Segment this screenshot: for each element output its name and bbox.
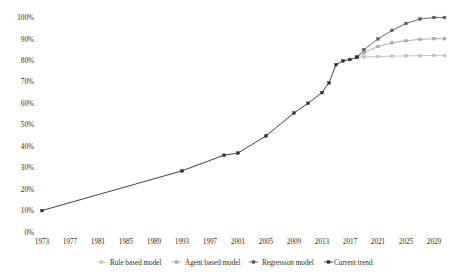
x-axis-tick-label: 2009	[287, 238, 302, 246]
x-axis-tick-label: 2029	[427, 238, 442, 246]
legend-marker-swatch	[175, 261, 178, 264]
series-marker	[356, 56, 359, 59]
chart-legend: Rule based modelAgent based modelRegress…	[97, 259, 373, 267]
series-marker	[41, 209, 44, 212]
y-axis-tick-label: 20%	[21, 186, 34, 194]
series-marker	[433, 16, 436, 19]
series-marker	[363, 52, 366, 55]
y-axis-tick-label: 10%	[21, 207, 34, 215]
series-marker	[419, 18, 422, 21]
series-marker	[443, 37, 446, 40]
series-marker	[377, 55, 380, 58]
x-axis-tick-label: 1977	[63, 238, 78, 246]
y-axis-tick-label: 90%	[21, 36, 34, 44]
series-marker	[307, 102, 310, 105]
series-lines-group	[42, 18, 445, 211]
y-axis-tick-label: 80%	[21, 57, 34, 65]
series-marker	[321, 91, 324, 94]
x-axis-tick-label: 2017	[343, 238, 358, 246]
series-marker	[419, 54, 422, 57]
y-axis-tick-label: 70%	[21, 78, 34, 86]
legend-marker-swatch	[100, 261, 103, 264]
series-line	[357, 55, 445, 57]
series-marker	[405, 55, 408, 58]
y-axis-tick-label: 50%	[21, 121, 34, 129]
series-marker	[237, 152, 240, 155]
y-axis-tick-labels: 0%10%20%30%40%50%60%70%80%90%100%	[17, 14, 34, 237]
series-marker	[433, 54, 436, 57]
series-marker	[293, 112, 296, 115]
line-chart: 0%10%20%30%40%50%60%70%80%90%100% 197319…	[0, 0, 462, 275]
x-axis-tick-label: 1985	[119, 238, 134, 246]
y-axis-tick-label: 30%	[21, 164, 34, 172]
legend-marker-swatch	[327, 261, 330, 264]
series-line	[357, 18, 445, 58]
series-marker	[335, 63, 338, 66]
series-line	[42, 57, 357, 210]
series-marker	[443, 16, 446, 19]
series-marker	[419, 38, 422, 41]
chart-container: 0%10%20%30%40%50%60%70%80%90%100% 197319…	[0, 0, 462, 275]
series-marker	[363, 56, 366, 59]
x-axis-tick-label: 2005	[259, 238, 274, 246]
series-marker	[265, 135, 268, 138]
series-marker	[377, 38, 380, 41]
series-marker	[405, 22, 408, 25]
series-marker	[377, 45, 380, 48]
y-axis-tick-label: 40%	[21, 143, 34, 151]
x-axis-tick-label: 2021	[371, 238, 386, 246]
y-axis-tick-label: 100%	[17, 14, 34, 22]
series-line	[357, 39, 445, 57]
x-axis-tick-label: 2025	[399, 238, 414, 246]
series-marker	[391, 29, 394, 32]
series-marker	[363, 48, 366, 51]
legend-item-label[interactable]: Regression model	[262, 259, 314, 267]
x-axis-tick-label: 1989	[147, 238, 162, 246]
series-marker	[391, 55, 394, 58]
x-axis-tick-labels: 1973197719811985198919931997200120052009…	[35, 238, 442, 246]
x-axis-tick-label: 1997	[203, 238, 218, 246]
legend-marker-swatch	[252, 261, 255, 264]
x-axis-tick-label: 2001	[231, 238, 246, 246]
legend-item-label[interactable]: Current trend	[334, 259, 373, 267]
series-marker	[223, 154, 226, 157]
legend-item-label[interactable]: Agent based model	[185, 259, 241, 267]
series-marker	[342, 59, 345, 62]
y-axis-tick-label: 0%	[24, 229, 34, 237]
series-marker	[443, 54, 446, 57]
legend-item-label[interactable]: Rule based model	[110, 259, 162, 267]
series-markers-group	[41, 16, 446, 212]
series-marker	[328, 82, 331, 85]
series-marker	[433, 37, 436, 40]
x-axis-tick-label: 2013	[315, 238, 330, 246]
x-axis-tick-label: 1993	[175, 238, 190, 246]
y-axis-tick-label: 60%	[21, 100, 34, 108]
series-marker	[405, 39, 408, 42]
series-marker	[391, 41, 394, 44]
series-marker	[181, 170, 184, 173]
x-axis-tick-label: 1973	[35, 238, 50, 246]
series-marker	[349, 58, 352, 61]
x-axis-tick-label: 1981	[91, 238, 106, 246]
